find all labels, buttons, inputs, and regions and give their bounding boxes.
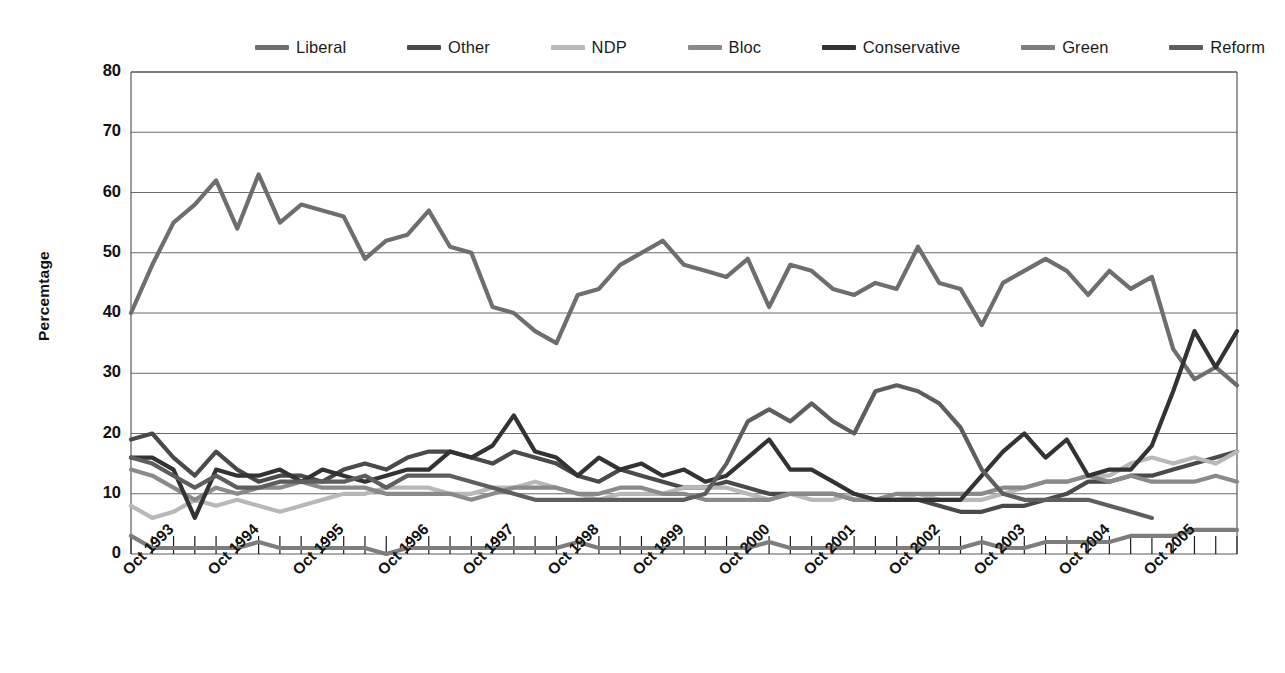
series-line-reform [131, 385, 1152, 518]
series-line-liberal [131, 174, 1237, 385]
y-tick-label: 0 [75, 543, 121, 562]
y-axis-title: Percemtage [35, 236, 53, 356]
y-tick-label: 70 [75, 121, 121, 140]
data-series-group [131, 174, 1237, 554]
y-tick-label: 20 [75, 423, 121, 442]
y-tick-label: 60 [75, 182, 121, 201]
chart-page: LiberalOtherNDPBlocConservativeGreenRefo… [0, 0, 1285, 673]
chart-plot-area: Percemtage 01020304050607080 Oct 1993Oct… [0, 0, 1285, 673]
y-tick-label: 30 [75, 362, 121, 381]
y-tick-label: 80 [75, 61, 121, 80]
y-tick-label: 50 [75, 242, 121, 261]
y-tick-label: 10 [75, 483, 121, 502]
y-tick-label: 40 [75, 302, 121, 321]
